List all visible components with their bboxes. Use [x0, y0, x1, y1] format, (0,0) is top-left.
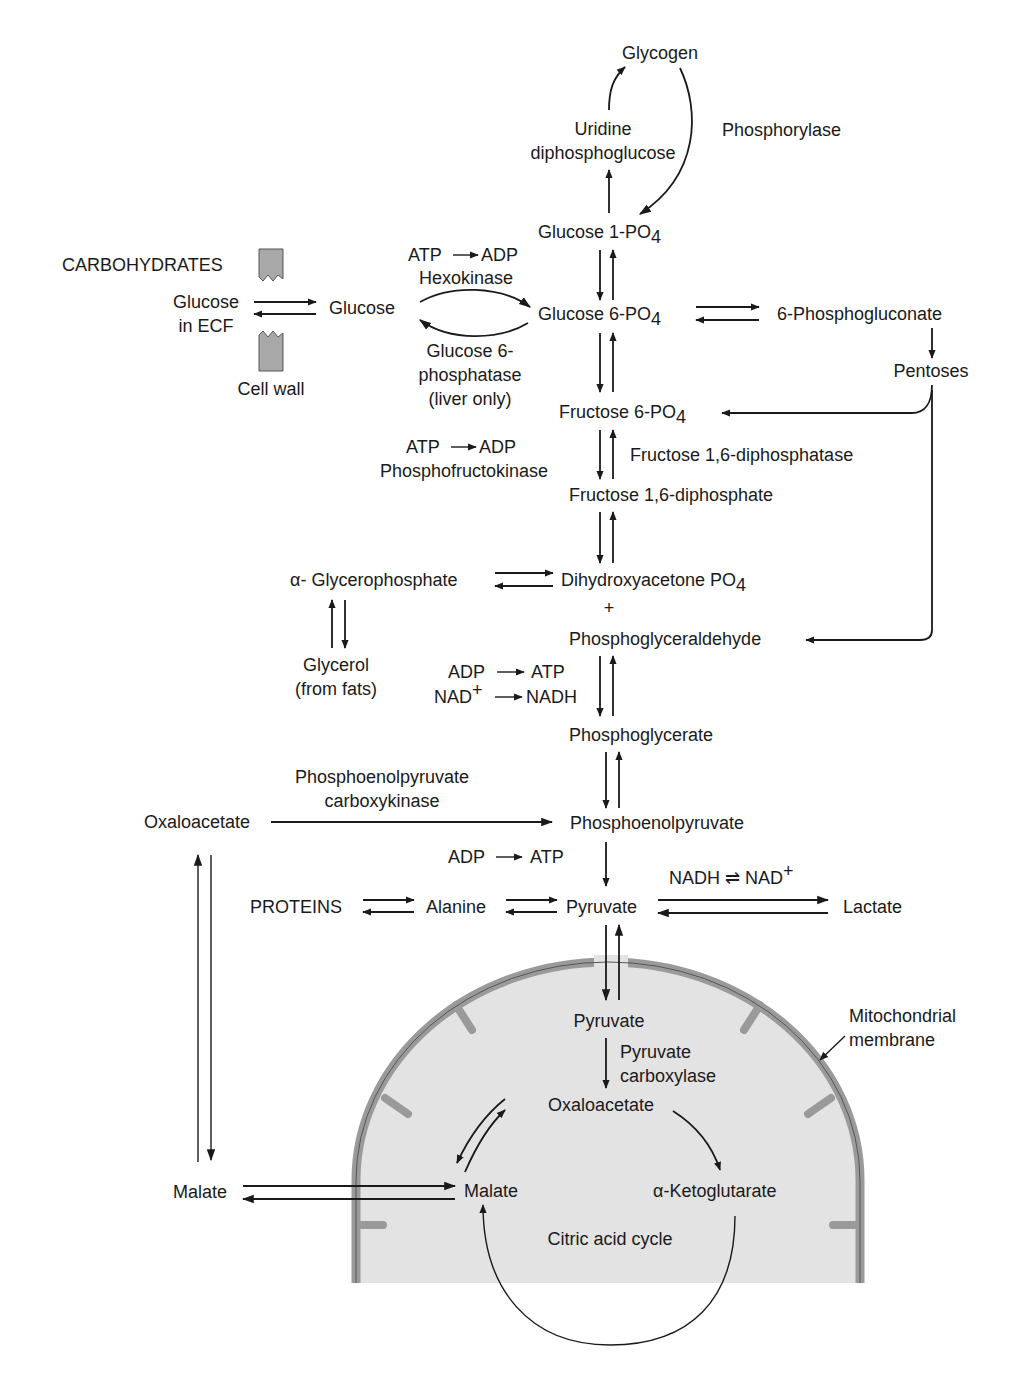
cofactor-pfk-atp: ATP — [406, 437, 440, 457]
node-lactate: Lactate — [843, 897, 902, 917]
label-cell-wall: Cell wall — [237, 379, 304, 399]
enzyme-phosphofructokinase: Phosphofructokinase — [380, 461, 548, 481]
node-udpg-line1: Uridine — [574, 119, 631, 139]
cofactor-pk-adp: ADP — [448, 847, 485, 867]
node-glycerol-line2: (from fats) — [295, 679, 377, 699]
node-phosphoglycerate: Phosphoglycerate — [569, 725, 713, 745]
enzyme-fructose-1-6-diphosphatase: Fructose 1,6-diphosphatase — [630, 445, 853, 465]
node-glucose-ecf-line1: Glucose — [173, 292, 239, 312]
node-glycogen: Glycogen — [622, 43, 698, 63]
cofactor-gapdh-atp: ATP — [531, 662, 565, 682]
enzyme-g6pase-line1: Glucose 6- — [426, 341, 513, 361]
enzyme-pepck-line1: Phosphoenolpyruvate — [295, 767, 469, 787]
arrow-udpg-to-glycogen — [609, 67, 625, 110]
enzyme-g6pase-line3: (liver only) — [428, 389, 511, 409]
label-mitochondrial-membrane-line1: Mitochondrial — [849, 1006, 956, 1026]
cofactor-gapdh-nadh: NADH — [526, 687, 577, 707]
cell-wall-block-bottom — [259, 331, 283, 371]
label-mitochondrial-membrane-line2: membrane — [849, 1030, 935, 1050]
node-pyruvate-cytosol: Pyruvate — [566, 897, 637, 917]
node-malate-cytosol: Malate — [173, 1182, 227, 1202]
cofactor-gapdh-nad: NAD+ — [434, 680, 483, 707]
node-fructose-1-6-diphosphate: Fructose 1,6-diphosphate — [569, 485, 773, 505]
node-glucose-6-phosphate: Glucose 6-PO4 — [538, 304, 661, 329]
arrow-membrane-pointer — [820, 1036, 845, 1060]
arrow-pentoses-to-pgald — [806, 390, 932, 640]
arrow-pentoses-to-f6p — [722, 385, 932, 413]
arrow-hexokinase — [420, 290, 530, 307]
node-phosphoenolpyruvate: Phosphoenolpyruvate — [570, 813, 744, 833]
cofactor-pk-atp: ATP — [530, 847, 564, 867]
node-glucose: Glucose — [329, 298, 395, 318]
arrow-g6pase — [420, 320, 528, 336]
label-carbohydrates: CARBOHYDRATES — [62, 255, 223, 275]
node-proteins: PROTEINS — [250, 897, 342, 917]
metabolic-pathway-diagram: Glycogen Uridine diphosphoglucose Phosph… — [0, 0, 1020, 1379]
node-glycerol-line1: Glycerol — [303, 655, 369, 675]
node-phosphoglyceraldehyde: Phosphoglyceraldehyde — [569, 629, 761, 649]
cofactor-hexokinase-atp: ATP — [408, 245, 442, 265]
label-citric-acid-cycle: Citric acid cycle — [547, 1229, 672, 1249]
cell-wall-block-top — [259, 249, 283, 281]
plus-sign: + — [604, 598, 615, 618]
node-alpha-ketoglutarate: α-Ketoglutarate — [653, 1181, 776, 1201]
node-malate-mitochondrion: Malate — [464, 1181, 518, 1201]
enzyme-phosphorylase: Phosphorylase — [722, 120, 841, 140]
node-glucose-ecf-line2: in ECF — [178, 316, 233, 336]
enzyme-pepck-line2: carboxykinase — [324, 791, 439, 811]
enzyme-hexokinase: Hexokinase — [419, 268, 513, 288]
node-alanine: Alanine — [426, 897, 486, 917]
node-oxaloacetate-cytosol: Oxaloacetate — [144, 812, 250, 832]
enzyme-pyruvate-carboxylase-line2: carboxylase — [620, 1066, 716, 1086]
cofactor-pfk-adp: ADP — [479, 437, 516, 457]
cofactor-hexokinase-adp: ADP — [481, 245, 518, 265]
node-dihydroxyacetone-phosphate: Dihydroxyacetone PO4 — [561, 570, 746, 595]
node-oxaloacetate-mitochondrion: Oxaloacetate — [548, 1095, 654, 1115]
cofactor-ldh: NADH ⇌ NAD+ — [669, 861, 794, 888]
membrane-pore — [594, 955, 628, 971]
node-pyruvate-mitochondrion: Pyruvate — [573, 1011, 644, 1031]
node-6-phosphogluconate: 6-Phosphogluconate — [777, 304, 942, 324]
node-udpg-line2: diphosphoglucose — [530, 143, 675, 163]
node-fructose-6-phosphate: Fructose 6-PO4 — [559, 402, 686, 427]
cofactor-gapdh-adp: ADP — [448, 662, 485, 682]
node-glucose-1-phosphate: Glucose 1-PO4 — [538, 222, 661, 247]
enzyme-g6pase-line2: phosphatase — [418, 365, 521, 385]
node-alpha-glycerophosphate: α- Glycerophosphate — [290, 570, 458, 590]
enzyme-pyruvate-carboxylase-line1: Pyruvate — [620, 1042, 691, 1062]
arrow-phosphorylase — [640, 68, 692, 214]
node-pentoses: Pentoses — [893, 361, 968, 381]
